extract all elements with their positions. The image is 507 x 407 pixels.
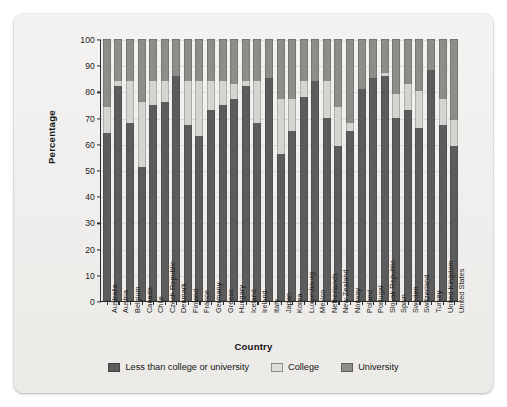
- bar-segment: [138, 102, 146, 168]
- y-tick-label: 0: [43, 297, 101, 307]
- bar-segment: [114, 39, 122, 81]
- x-tick-label: Germany: [214, 283, 223, 313]
- x-tick-mark: [408, 301, 409, 305]
- bar[interactable]: [369, 39, 377, 301]
- bar-segment: [381, 73, 389, 76]
- legend-item[interactable]: College: [271, 362, 319, 372]
- legend-label: College: [288, 362, 319, 372]
- x-tick-mark: [373, 301, 374, 305]
- bar[interactable]: [195, 39, 203, 301]
- bar[interactable]: [207, 39, 215, 301]
- x-tick-mark: [431, 301, 432, 305]
- x-tick-mark: [142, 301, 143, 305]
- bar-segment: [300, 81, 308, 97]
- bar-segment: [450, 120, 458, 146]
- y-tick-label: 70: [43, 114, 101, 124]
- bar-segment: [334, 39, 342, 107]
- bar[interactable]: [346, 39, 354, 301]
- legend-item[interactable]: Less than college or university: [108, 362, 249, 372]
- bar-segment: [439, 99, 447, 125]
- x-tick-mark: [338, 301, 339, 305]
- bar-segment: [184, 39, 192, 81]
- legend-swatch-icon: [108, 363, 120, 372]
- bar-segment: [265, 39, 273, 78]
- bar-segment: [392, 39, 400, 94]
- bar[interactable]: [126, 39, 134, 301]
- bar-segment: [253, 39, 261, 81]
- bar[interactable]: [427, 39, 435, 301]
- x-tick-mark: [107, 301, 108, 305]
- bar-segment: [149, 81, 157, 105]
- x-tick-label: Slovak Republic: [388, 260, 397, 313]
- bar-segment: [265, 78, 273, 301]
- bar-segment: [242, 86, 250, 301]
- x-tick-label: Hungary: [237, 285, 246, 313]
- bar-segment: [346, 123, 354, 131]
- x-axis-title: Country: [14, 341, 493, 352]
- bar-segment: [207, 110, 215, 301]
- bar[interactable]: [334, 39, 342, 301]
- bar-segment: [103, 39, 111, 107]
- bar[interactable]: [265, 39, 273, 301]
- bar-segment: [311, 39, 319, 81]
- y-tick-label: 20: [43, 245, 101, 255]
- bar[interactable]: [184, 39, 192, 301]
- x-tick-label: Netherlands: [330, 273, 339, 313]
- figure-card: Percentage 0102030405060708090100 Austra…: [14, 14, 493, 393]
- bar-segment: [334, 107, 342, 146]
- bar[interactable]: [300, 39, 308, 301]
- bar-segment: [358, 89, 366, 301]
- bar-segment: [195, 39, 203, 81]
- bar-segment: [149, 39, 157, 81]
- x-tick-label: Portugal: [376, 285, 385, 313]
- bar-segment: [242, 39, 250, 81]
- bar-segment: [415, 91, 423, 128]
- x-tick-label: New Zealand: [341, 269, 350, 313]
- bar-segment: [346, 39, 354, 123]
- bar-segment: [427, 70, 435, 301]
- x-tick-mark: [269, 301, 270, 305]
- x-tick-mark: [292, 301, 293, 305]
- bar-segment: [195, 81, 203, 136]
- bar[interactable]: [149, 39, 157, 301]
- x-tick-label: Czech Republic: [168, 261, 177, 313]
- bar[interactable]: [230, 39, 238, 301]
- legend-item[interactable]: University: [341, 362, 398, 372]
- x-tick-mark: [211, 301, 212, 305]
- bar[interactable]: [358, 39, 366, 301]
- bar[interactable]: [404, 39, 412, 301]
- bar-segment: [300, 97, 308, 301]
- bar-segment: [288, 99, 296, 130]
- bar[interactable]: [103, 39, 111, 301]
- bar[interactable]: [219, 39, 227, 301]
- bar-segment: [404, 84, 412, 110]
- legend-swatch-icon: [271, 363, 283, 372]
- x-tick-mark: [443, 301, 444, 305]
- bar[interactable]: [277, 39, 285, 301]
- bar[interactable]: [415, 39, 423, 301]
- bar[interactable]: [288, 39, 296, 301]
- bar-segment: [253, 81, 261, 123]
- bar-segment: [311, 81, 319, 301]
- bar-segment: [126, 81, 134, 123]
- x-tick-mark: [165, 301, 166, 305]
- bar[interactable]: [253, 39, 261, 301]
- bar[interactable]: [138, 39, 146, 301]
- bar-segment: [184, 81, 192, 126]
- bar[interactable]: [242, 39, 250, 301]
- bar-group: [101, 40, 459, 301]
- bar-segment: [404, 39, 412, 84]
- chart-legend: Less than college or universityCollegeUn…: [14, 362, 493, 372]
- bar[interactable]: [114, 39, 122, 301]
- x-tick-label: Belgium: [133, 286, 142, 313]
- y-tick-label: 30: [43, 218, 101, 228]
- y-tick-label: 10: [43, 271, 101, 281]
- x-tick-mark: [130, 301, 131, 305]
- bar-segment: [288, 39, 296, 99]
- x-tick-mark: [118, 301, 119, 305]
- bar[interactable]: [311, 39, 319, 301]
- x-tick-mark: [304, 301, 305, 305]
- y-tick-label: 60: [43, 140, 101, 150]
- x-tick-label: Switzerland: [422, 275, 431, 313]
- bar[interactable]: [323, 39, 331, 301]
